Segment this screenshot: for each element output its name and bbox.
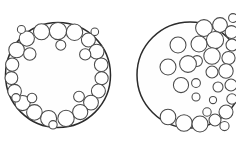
circle-packing-figure <box>0 0 236 147</box>
clustered-heterogeneous-packing-packed-circle-2 <box>225 26 236 39</box>
annular-ring-packing-packed-circle-16 <box>73 104 88 119</box>
annular-ring-packing-packed-circle-2 <box>66 24 82 40</box>
annular-ring-packing-packed-circle-1 <box>34 24 50 40</box>
clustered-heterogeneous-packing-packed-circle-22 <box>192 116 208 132</box>
clustered-heterogeneous-packing-packed-circle-17 <box>192 79 201 88</box>
clustered-heterogeneous-packing-packed-circle-7 <box>222 51 235 64</box>
clustered-heterogeneous-packing-packed-circle-25 <box>227 94 236 104</box>
clustered-heterogeneous-packing-packed-circle-10 <box>206 66 218 78</box>
clustered-heterogeneous-packing-packed-circle-4 <box>226 39 236 51</box>
clustered-heterogeneous-packing-packed-circle-28 <box>229 14 236 23</box>
annular-ring-packing-packed-circle-6 <box>89 44 104 59</box>
annular-ring-packing-packed-circle-19 <box>24 48 36 60</box>
annular-ring-packing-packed-circle-21 <box>27 93 37 103</box>
annular-ring-packing-packed-circle-27 <box>49 121 57 129</box>
clustered-heterogeneous-packing-packed-circle-15 <box>160 59 176 75</box>
annular-ring-packing-packed-circle-25 <box>91 28 99 36</box>
clustered-heterogeneous-packing-packed-circle-27 <box>203 108 211 116</box>
annular-ring-packing-packed-circle-5 <box>9 42 25 58</box>
annular-ring-packing-packed-circle-8 <box>94 58 108 72</box>
clustered-heterogeneous-packing-packed-circle-26 <box>220 121 229 130</box>
clustered-heterogeneous-packing-packed-circle-20 <box>160 109 176 125</box>
clustered-heterogeneous-packing-packed-circle-9 <box>219 64 233 78</box>
figure-container <box>0 0 236 147</box>
annular-ring-packing-packed-circle-22 <box>74 91 85 102</box>
clustered-heterogeneous-packing-packed-circle-18 <box>192 93 200 101</box>
annular-ring-packing-packed-circle-20 <box>80 49 91 60</box>
clustered-heterogeneous-packing-packed-circle-23 <box>209 114 221 126</box>
clustered-heterogeneous-packing-packed-circle-6 <box>204 48 220 64</box>
annular-ring-packing-packed-circle-23 <box>56 40 66 50</box>
clustered-heterogeneous-packing-packed-circle-24 <box>219 105 233 119</box>
clustered-heterogeneous-packing-packed-circle-12 <box>213 82 223 92</box>
annular-ring-packing-packed-circle-15 <box>27 105 43 121</box>
left-panel-annular-packing <box>5 22 111 129</box>
right-panel-clustered-packing <box>137 14 236 132</box>
annular-ring-packing-packed-circle-9 <box>5 72 18 85</box>
annular-ring-packing-packed-circle-0 <box>49 22 66 39</box>
annular-ring-packing-packed-circle-10 <box>95 72 108 85</box>
clustered-heterogeneous-packing-packed-circle-21 <box>176 115 192 131</box>
annular-ring-packing-packed-circle-18 <box>58 110 74 126</box>
annular-ring-packing-packed-circle-26 <box>17 25 25 33</box>
clustered-heterogeneous-packing-packed-circle-16 <box>173 77 188 92</box>
clustered-heterogeneous-packing-packed-circle-3 <box>206 31 223 48</box>
clustered-heterogeneous-packing-packed-circle-5 <box>191 36 207 52</box>
annular-ring-packing-packed-circle-24 <box>12 94 20 102</box>
annular-ring-packing-packed-circle-7 <box>6 58 19 71</box>
clustered-heterogeneous-packing-packed-circle-11 <box>225 79 236 91</box>
clustered-heterogeneous-packing-packed-circle-19 <box>209 96 216 103</box>
clustered-heterogeneous-packing-packed-circle-14 <box>180 56 197 73</box>
clustered-heterogeneous-packing-packed-circle-13 <box>170 37 186 53</box>
